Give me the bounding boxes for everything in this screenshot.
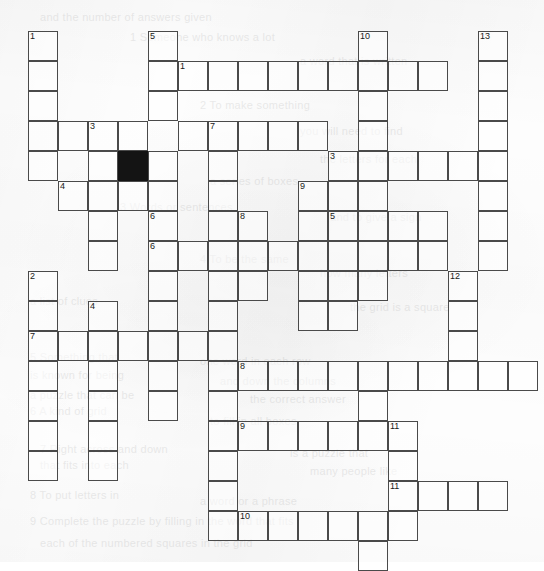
crossword-cell[interactable] <box>148 61 178 91</box>
crossword-cell[interactable] <box>418 211 448 241</box>
crossword-cell[interactable] <box>298 511 328 541</box>
crossword-cell[interactable] <box>478 211 508 241</box>
crossword-cell[interactable] <box>148 271 178 301</box>
crossword-cell[interactable] <box>238 271 268 301</box>
crossword-cell[interactable] <box>148 331 178 361</box>
crossword-cell[interactable]: 8 <box>238 361 268 391</box>
crossword-cell[interactable] <box>478 181 508 211</box>
crossword-cell[interactable] <box>88 421 118 451</box>
crossword-cell[interactable] <box>478 151 508 181</box>
crossword-cell[interactable] <box>388 451 418 481</box>
crossword-cell[interactable] <box>328 511 358 541</box>
crossword-cell[interactable]: 13 <box>478 31 508 61</box>
crossword-cell[interactable] <box>268 241 298 271</box>
crossword-cell[interactable]: 3 <box>88 121 118 151</box>
crossword-cell[interactable]: 4 <box>88 301 118 331</box>
crossword-cell[interactable] <box>28 91 58 121</box>
crossword-cell[interactable]: 2 <box>28 271 58 301</box>
crossword-cell[interactable] <box>298 211 328 241</box>
crossword-cell[interactable]: 1 <box>28 31 58 61</box>
crossword-cell[interactable] <box>388 511 418 541</box>
crossword-cell[interactable] <box>28 301 58 331</box>
crossword-cell[interactable]: 9 <box>238 421 268 451</box>
crossword-cell[interactable] <box>268 511 298 541</box>
crossword-cell[interactable] <box>148 361 178 391</box>
crossword-cell[interactable] <box>28 121 58 151</box>
crossword-cell[interactable]: 4 <box>58 181 88 211</box>
crossword-cell[interactable] <box>448 301 478 331</box>
crossword-cell[interactable] <box>328 241 358 271</box>
crossword-cell[interactable] <box>88 451 118 481</box>
crossword-cell[interactable]: 8 <box>238 211 268 241</box>
crossword-cell[interactable] <box>328 421 358 451</box>
crossword-cell[interactable] <box>268 361 298 391</box>
crossword-cell[interactable] <box>358 391 388 421</box>
crossword-cell[interactable] <box>148 391 178 421</box>
crossword-cell[interactable] <box>358 541 388 571</box>
crossword-cell[interactable] <box>88 241 118 271</box>
crossword-cell[interactable] <box>388 61 418 91</box>
crossword-cell[interactable] <box>118 331 148 361</box>
crossword-cell[interactable] <box>28 361 58 391</box>
crossword-cell[interactable] <box>178 241 208 271</box>
crossword-cell[interactable] <box>358 211 388 241</box>
crossword-cell[interactable] <box>328 271 358 301</box>
crossword-cell[interactable] <box>208 391 238 421</box>
crossword-cell[interactable] <box>298 241 328 271</box>
crossword-cell[interactable] <box>478 241 508 271</box>
crossword-cell[interactable]: 12 <box>448 271 478 301</box>
crossword-cell[interactable] <box>418 61 448 91</box>
crossword-cell[interactable] <box>208 241 238 271</box>
crossword-cell[interactable]: 6 <box>148 211 178 241</box>
crossword-cell[interactable] <box>358 241 388 271</box>
crossword-cell[interactable] <box>358 421 388 451</box>
crossword-cell[interactable] <box>28 151 58 181</box>
crossword-cell[interactable] <box>58 331 88 361</box>
crossword-cell[interactable] <box>208 451 238 481</box>
crossword-cell[interactable]: 7 <box>28 331 58 361</box>
crossword-cell[interactable] <box>328 181 358 211</box>
crossword-cell[interactable] <box>388 211 418 241</box>
crossword-cell[interactable] <box>388 361 418 391</box>
crossword-cell[interactable] <box>388 241 418 271</box>
crossword-cell[interactable] <box>268 61 298 91</box>
crossword-cell[interactable] <box>28 61 58 91</box>
crossword-cell[interactable] <box>328 301 358 331</box>
crossword-cell[interactable] <box>238 61 268 91</box>
crossword-cell[interactable]: 9 <box>298 181 328 211</box>
crossword-cell[interactable]: 5 <box>328 211 358 241</box>
crossword-cell[interactable] <box>418 361 448 391</box>
crossword-cell[interactable] <box>418 241 448 271</box>
crossword-cell[interactable] <box>448 151 478 181</box>
crossword-cell[interactable] <box>208 271 238 301</box>
crossword-cell[interactable] <box>358 361 388 391</box>
crossword-cell[interactable] <box>328 361 358 391</box>
crossword-cell[interactable] <box>148 151 178 181</box>
crossword-cell[interactable] <box>148 91 178 121</box>
crossword-cell[interactable] <box>448 361 478 391</box>
crossword-cell[interactable] <box>208 301 238 331</box>
crossword-cell[interactable] <box>268 421 298 451</box>
crossword-cell[interactable] <box>208 151 238 181</box>
crossword-cell[interactable] <box>478 61 508 91</box>
crossword-cell[interactable] <box>58 121 88 151</box>
crossword-cell[interactable] <box>208 421 238 451</box>
crossword-cell[interactable]: 1 <box>178 61 208 91</box>
crossword-cell[interactable] <box>208 61 238 91</box>
crossword-cell[interactable] <box>28 391 58 421</box>
crossword-cell[interactable] <box>418 151 448 181</box>
crossword-cell[interactable]: 5 <box>148 31 178 61</box>
crossword-cell[interactable] <box>88 151 118 181</box>
crossword-cell[interactable] <box>448 481 478 511</box>
crossword-cell[interactable]: 7 <box>208 121 238 151</box>
crossword-cell[interactable] <box>358 151 388 181</box>
crossword-cell[interactable]: 3 <box>328 151 358 181</box>
crossword-cell[interactable] <box>358 121 388 151</box>
crossword-cell[interactable] <box>88 331 118 361</box>
crossword-cell[interactable] <box>298 61 328 91</box>
crossword-cell[interactable] <box>28 421 58 451</box>
crossword-cell[interactable] <box>88 211 118 241</box>
crossword-cell[interactable] <box>328 61 358 91</box>
crossword-cell[interactable] <box>448 331 478 361</box>
